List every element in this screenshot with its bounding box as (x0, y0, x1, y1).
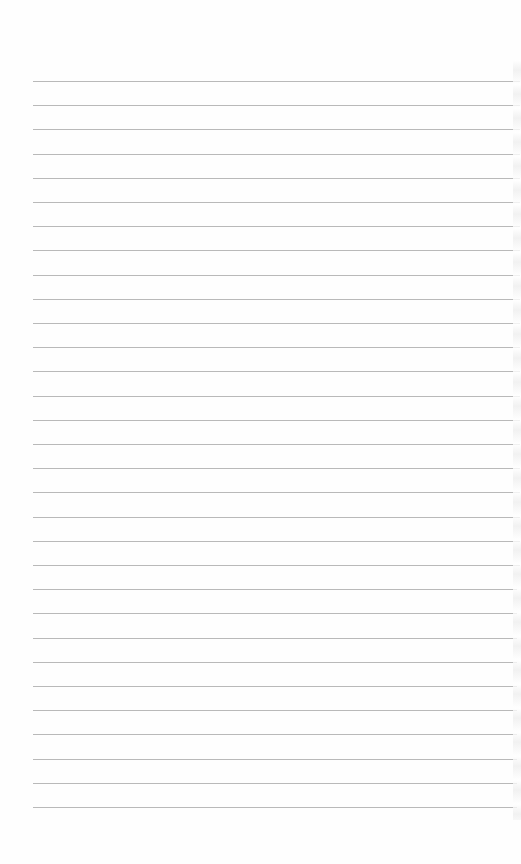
ruled-line (33, 734, 517, 735)
ruled-line (33, 154, 520, 155)
ruled-line (33, 807, 517, 808)
ruled-line (33, 129, 520, 130)
ruled-line (33, 444, 520, 445)
ruled-line (33, 226, 520, 227)
ruled-line (33, 371, 520, 372)
ruled-line (33, 565, 520, 566)
ruled-line (33, 299, 520, 300)
ruled-line (33, 638, 517, 639)
ruled-line (33, 468, 520, 469)
ruled-line (33, 250, 520, 251)
notebook-page (0, 0, 521, 864)
ruled-line (33, 178, 520, 179)
ruled-line (33, 323, 520, 324)
ruled-line (33, 492, 520, 493)
ruled-line (33, 81, 520, 82)
ruled-line (33, 105, 520, 106)
ruled-line (33, 275, 520, 276)
ruled-line (33, 613, 517, 614)
ruled-line (33, 517, 520, 518)
ruled-line (33, 662, 517, 663)
ruled-line (33, 589, 517, 590)
ruled-line (33, 783, 517, 784)
ruled-line (33, 710, 517, 711)
ruled-line (33, 541, 520, 542)
page-edge-shadow (513, 60, 521, 820)
ruled-line (33, 420, 520, 421)
ruled-line (33, 202, 520, 203)
ruled-line (33, 759, 517, 760)
ruled-line (33, 686, 517, 687)
ruled-line (33, 396, 520, 397)
ruled-line (33, 347, 520, 348)
